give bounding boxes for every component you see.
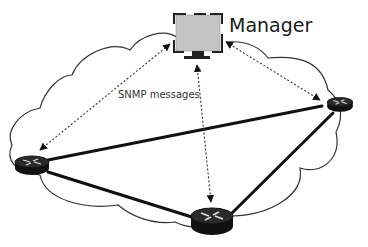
manager-label: Manager <box>229 14 312 36</box>
snmp-link-bottom <box>197 65 211 202</box>
router-bottom-icon[interactable] <box>191 208 233 235</box>
router-left-icon[interactable] <box>15 156 49 175</box>
snmp-link-right <box>226 42 320 100</box>
snmp-network-diagram: Manager SNMP messages <box>0 0 368 247</box>
manager-workstation-icon[interactable] <box>174 14 222 59</box>
router-right-icon[interactable] <box>327 98 353 112</box>
link-left-bottom <box>48 172 195 218</box>
link-left-right <box>48 106 322 160</box>
link-bottom-right <box>230 113 333 215</box>
snmp-messages-label: SNMP messages <box>118 89 200 100</box>
network-cloud <box>10 33 341 227</box>
router-links <box>48 106 333 218</box>
snmp-message-links <box>40 42 320 202</box>
